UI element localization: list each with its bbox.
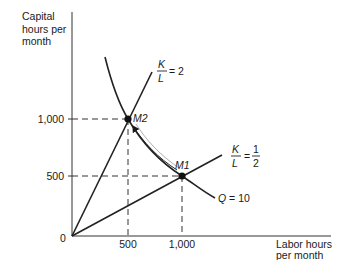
point-m1 (178, 172, 185, 179)
ray-kl-half (72, 155, 222, 236)
y-axis-title: Capital hours per month (22, 10, 69, 47)
svg-text:L: L (158, 72, 164, 84)
svg-text:K: K (158, 58, 166, 70)
svg-text:2: 2 (253, 157, 259, 169)
x-tick-label-1000: 1,000 (169, 238, 195, 250)
svg-text:1: 1 (253, 143, 259, 155)
ray-kl-2 (72, 72, 152, 236)
y-tick-label-1000: 1,000 (38, 113, 64, 125)
y-tick-label-500: 500 (46, 170, 64, 182)
point-m2 (124, 115, 131, 122)
svg-text:K: K (232, 143, 240, 155)
ray-kl-2-label: K L = 2 (157, 58, 184, 84)
isoquant-label: Q = 10 (218, 192, 250, 204)
svg-text:= 2: = 2 (169, 65, 184, 77)
movement-arrow-outline (136, 124, 179, 168)
isoquant-chart: Capital hours per month Labor hours per … (0, 0, 351, 260)
origin-label: 0 (60, 232, 66, 244)
point-m2-label: M2 (133, 112, 148, 124)
ray-kl-half-label: K L = 1 2 (231, 143, 260, 169)
x-tick-label-500: 500 (119, 238, 137, 250)
svg-text:=: = (244, 150, 250, 162)
x-axis-title: Labor hours per month (276, 238, 335, 260)
point-m1-label: M1 (175, 159, 190, 171)
svg-text:L: L (232, 157, 238, 169)
